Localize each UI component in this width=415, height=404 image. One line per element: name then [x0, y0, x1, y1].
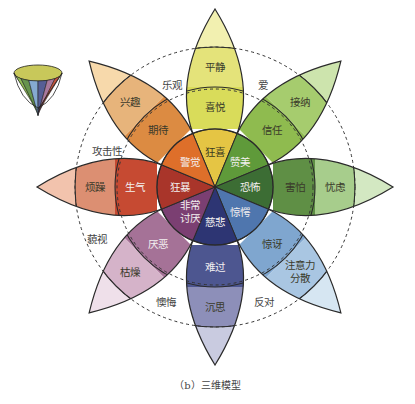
emotion-wheel-diagram: 狂喜喜悦平静赞美信任接纳恐怖害怕忧虑惊愕惊讶注意力分散慈悲难过沉思非常讨厌厌恶枯…: [0, 0, 415, 404]
petal-label: 害怕: [285, 181, 305, 193]
dyad-label: 懊悔: [156, 296, 177, 308]
petal-label: 惊讶: [262, 238, 283, 250]
petal-label: 狂暴: [170, 181, 191, 193]
petal-label: 期待: [148, 124, 169, 136]
petal-label: 厌恶: [148, 238, 168, 250]
dyad-label: 反对: [254, 296, 275, 308]
petal-label: 惊愕: [230, 206, 251, 218]
figure-caption: （b）三维模型: [0, 377, 415, 392]
petal-label: 烦躁: [85, 181, 106, 193]
petal-label: 慈悲: [205, 216, 226, 228]
dyad-label: 爱: [258, 79, 268, 91]
petal-label: 沉思: [205, 301, 225, 313]
petal-label: 兴趣: [120, 96, 141, 108]
cone-3d-model-icon: [14, 65, 62, 116]
petal-label: 信任: [262, 124, 283, 136]
petal-label: 接纳: [290, 96, 310, 108]
petal-label: 警觉: [180, 156, 200, 168]
dyad-label: 藐视: [87, 233, 108, 245]
petal-label: 忧虑: [325, 181, 346, 193]
petal-label: 枯燥: [120, 266, 141, 278]
petal-label: 非常: [180, 199, 200, 211]
petal-label: 恐怖: [240, 181, 260, 193]
petal-label: 生气: [125, 181, 146, 193]
petal-label: 分散: [290, 272, 311, 284]
dyad-label: 乐观: [162, 79, 183, 91]
petal-label: 注意力: [285, 259, 315, 271]
dyad-label: 攻击性: [92, 145, 122, 157]
petal-label: 讨厌: [180, 212, 201, 224]
petal-label: 平静: [205, 61, 226, 73]
petal-label: 赞美: [230, 156, 251, 168]
petal-label: 难过: [205, 261, 226, 273]
petal-label: 狂喜: [205, 146, 225, 158]
petal-label: 喜悦: [205, 101, 226, 113]
